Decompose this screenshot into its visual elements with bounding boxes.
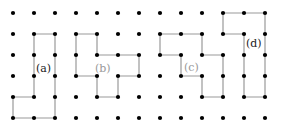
lattice-dot <box>200 74 204 78</box>
lattice-dot <box>263 53 267 57</box>
lattice-dot <box>221 32 225 36</box>
lattice-dot <box>200 95 204 99</box>
lattice-dot <box>137 32 141 36</box>
lattice-dot <box>242 116 246 120</box>
lattice-dot <box>53 53 57 57</box>
lattice-dot <box>116 74 120 78</box>
polygon-labels: (a) (b) (c) (d) <box>36 37 262 75</box>
lattice-dot <box>53 74 57 78</box>
lattice-dot <box>53 11 57 15</box>
lattice-dot <box>137 53 141 57</box>
lattice-dot <box>137 74 141 78</box>
lattice-dot <box>158 74 162 78</box>
lattice-dot <box>263 32 267 36</box>
lattice-dot <box>158 95 162 99</box>
lattice-dot <box>53 32 57 36</box>
lattice-dot <box>32 95 36 99</box>
lattice-dot <box>11 32 15 36</box>
label-c: (c) <box>184 61 199 74</box>
lattice-polygon-figure: (a) (b) (c) (d) <box>0 0 282 130</box>
label-d: (d) <box>246 37 262 50</box>
lattice-dot <box>158 116 162 120</box>
lattice-dot <box>32 53 36 57</box>
lattice-dot <box>74 32 78 36</box>
lattice-dot <box>116 95 120 99</box>
lattice-dot <box>221 74 225 78</box>
lattice-dot <box>221 95 225 99</box>
lattice-dot <box>11 116 15 120</box>
lattice-dot <box>221 53 225 57</box>
lattice-dot <box>221 11 225 15</box>
lattice-dot <box>137 116 141 120</box>
lattice-dot <box>116 116 120 120</box>
lattice-dot <box>263 74 267 78</box>
lattice-dot <box>242 32 246 36</box>
lattice-dot <box>53 116 57 120</box>
lattice-dot <box>32 32 36 36</box>
lattice-dot <box>116 32 120 36</box>
lattice-dot <box>200 116 204 120</box>
lattice-dot <box>32 116 36 120</box>
lattice-dot <box>32 11 36 15</box>
lattice-dot <box>116 53 120 57</box>
lattice-dot <box>263 95 267 99</box>
lattice-dot <box>242 95 246 99</box>
lattice-dot <box>242 11 246 15</box>
lattice-dot <box>74 74 78 78</box>
lattice-dot <box>263 11 267 15</box>
lattice-dot <box>179 74 183 78</box>
lattice-dot <box>137 11 141 15</box>
lattice-dot <box>11 74 15 78</box>
lattice-dot <box>11 53 15 57</box>
lattice-dot <box>158 11 162 15</box>
lattice-dot <box>11 95 15 99</box>
lattice-dot <box>221 116 225 120</box>
lattice-dot <box>11 11 15 15</box>
lattice-dot <box>179 32 183 36</box>
lattice-dot <box>95 53 99 57</box>
label-b: (b) <box>95 62 111 75</box>
lattice-dot <box>95 11 99 15</box>
lattice-diagram: (a) (b) (c) (d) <box>0 0 282 130</box>
lattice-dot <box>74 116 78 120</box>
lattice-dot <box>200 32 204 36</box>
lattice-dot <box>200 11 204 15</box>
lattice-dot <box>53 95 57 99</box>
lattice-dot <box>74 53 78 57</box>
lattice-dot <box>200 53 204 57</box>
lattice-dot <box>158 53 162 57</box>
label-a: (a) <box>36 62 51 75</box>
lattice-dot <box>242 53 246 57</box>
lattice-dot <box>95 95 99 99</box>
lattice-dot <box>242 74 246 78</box>
lattice-dot <box>116 11 120 15</box>
lattice-dot <box>95 116 99 120</box>
lattice-dot <box>263 116 267 120</box>
lattice-dot <box>179 53 183 57</box>
lattice-dot <box>179 116 183 120</box>
lattice-dot <box>179 11 183 15</box>
lattice-dot <box>74 11 78 15</box>
lattice-dot <box>158 32 162 36</box>
lattice-dot <box>74 95 78 99</box>
lattice-dot <box>95 32 99 36</box>
lattice-dot <box>179 95 183 99</box>
lattice-dot <box>137 95 141 99</box>
